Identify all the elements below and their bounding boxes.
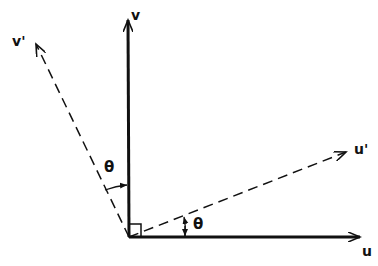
- label-theta-lower: θ: [193, 215, 203, 233]
- theta-arc-upper: [105, 185, 127, 190]
- u-prime-vector: [129, 152, 346, 237]
- label-u-prime: u': [354, 141, 368, 157]
- v-vector: [128, 20, 129, 237]
- label-v: v: [131, 7, 140, 23]
- label-u: u: [362, 243, 372, 259]
- label-theta-upper: θ: [104, 158, 114, 176]
- label-v-prime: v': [12, 33, 25, 49]
- v-prime-vector: [36, 44, 129, 237]
- vector-rotation-diagram: v v' u' u θ θ: [0, 0, 378, 266]
